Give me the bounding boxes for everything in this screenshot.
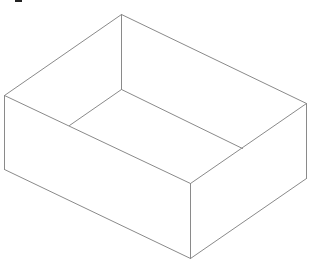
box-edges bbox=[5, 15, 307, 259]
edge-inner_back_bottom-inner_left bbox=[70, 90, 122, 126]
edge-top_back-left_top bbox=[5, 15, 122, 96]
edge-inner_back_bottom-inner_right bbox=[122, 90, 243, 149]
edge-right_bottom-front_bottom bbox=[191, 179, 307, 259]
edge-left_top-front_top bbox=[5, 96, 191, 184]
edge-top_back-right_top bbox=[122, 15, 307, 104]
open-box-diagram bbox=[0, 0, 313, 262]
edge-right_top-front_top bbox=[191, 104, 307, 184]
edge-left_bottom-front_bottom bbox=[5, 170, 191, 259]
